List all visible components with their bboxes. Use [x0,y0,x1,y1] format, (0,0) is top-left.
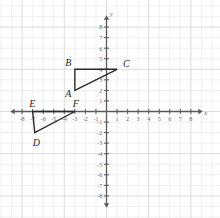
x-tick-label: 4 [147,115,150,122]
x-tick-label: 1 [116,115,119,122]
coordinate-grid-svg: -8-7-6-5-4-3-2-112345678-8-7-6-5-4-3-2-1… [0,0,220,218]
x-tick-label: -6 [41,115,46,122]
x-axis-label: x [203,109,207,116]
x-tick-label: 3 [137,115,140,122]
vertex-label-f: F [72,98,80,109]
y-tick-label: -2 [97,129,102,136]
y-tick-label: -5 [97,161,102,168]
y-tick-label: 2 [99,87,102,94]
vertex-label-d: D [32,137,41,148]
coordinate-plane-figure: -8-7-6-5-4-3-2-112345678-8-7-6-5-4-3-2-1… [0,0,220,218]
y-tick-label: 5 [99,55,102,62]
x-tick-label: -8 [20,115,25,122]
x-tick-label: 6 [168,115,171,122]
y-tick-label: 1 [99,97,102,104]
x-tick-label: -3 [72,115,77,122]
y-tick-label: -7 [97,182,102,189]
vertex-label-b: B [65,57,71,68]
y-tick-label: 6 [99,45,102,52]
x-tick-label: 2 [126,115,129,122]
vertex-label-e: E [28,98,35,109]
x-tick-label: 7 [179,115,182,122]
y-tick-label: -6 [97,171,102,178]
vertex-label-a: A [64,88,72,99]
x-tick-label: 5 [158,115,161,122]
y-tick-label: 7 [99,34,102,41]
x-tick-label: 8 [189,115,192,122]
y-tick-label: -1 [97,118,102,125]
y-tick-label: -3 [97,139,102,146]
vertex-label-c: C [123,58,130,69]
y-tick-label: -4 [97,150,102,157]
y-tick-label: 8 [99,23,102,30]
x-tick-label: -5 [51,115,56,122]
y-tick-label: -8 [97,192,102,199]
x-tick-label: -2 [83,115,88,122]
y-axis-label: y [109,10,113,17]
